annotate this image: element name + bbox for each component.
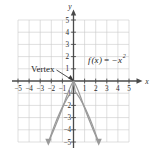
x-tick-label--5: −5: [14, 85, 22, 93]
equation-equals: =: [104, 55, 110, 65]
equation-base: x: [117, 55, 122, 65]
y-tick-label--5: −5: [64, 139, 72, 147]
x-tick-label-1: 1: [83, 85, 87, 93]
y-tick-label-3: 3: [65, 41, 69, 49]
graph-figure: −5 −4 −3 −2 −1 1 2 3 4 5 5 4 3 2 1 −1 −2…: [0, 0, 159, 148]
x-tick-label-3: 3: [105, 85, 109, 93]
y-tick-label-1: 1: [65, 65, 69, 73]
figure-background: [0, 0, 159, 148]
y-tick-label-4: 4: [65, 29, 69, 37]
x-tick-label-2: 2: [94, 85, 98, 93]
y-tick-label--4: −4: [64, 126, 72, 134]
y-tick-label--3: −3: [64, 114, 72, 122]
equation-label: f ( x ) = − x 2: [88, 53, 126, 64]
vertex-label: Vertex: [31, 64, 55, 74]
equation-exponent: 2: [123, 53, 126, 59]
equation-paren-close: ): [98, 55, 102, 65]
equation-minus-sign: −: [112, 55, 118, 65]
x-tick-label--3: −3: [36, 85, 44, 93]
x-tick-label-5: 5: [127, 85, 131, 93]
x-tick-label-4: 4: [116, 85, 120, 93]
x-tick-label--2: −2: [47, 85, 55, 93]
y-tick-label-2: 2: [65, 53, 69, 61]
x-tick-label--4: −4: [25, 85, 33, 93]
y-axis-label: y: [67, 2, 72, 11]
y-tick-label-5: 5: [65, 17, 69, 25]
coordinate-plane-svg: −5 −4 −3 −2 −1 1 2 3 4 5 5 4 3 2 1 −1 −2…: [0, 0, 159, 148]
x-axis-label: x: [144, 77, 149, 86]
equation-variable: x: [93, 55, 98, 65]
